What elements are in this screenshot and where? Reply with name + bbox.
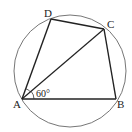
vertex-label-b: B bbox=[117, 98, 124, 110]
vertex-label-d: D bbox=[44, 7, 52, 19]
diagram-canvas: A B C D 60° bbox=[0, 0, 132, 132]
geometry-figure: A B C D 60° bbox=[0, 0, 132, 132]
angle-arc-cad bbox=[26, 89, 31, 92]
segment-bc bbox=[104, 29, 116, 99]
segment-cd bbox=[51, 19, 104, 29]
vertex-label-a: A bbox=[13, 98, 21, 110]
circumcircle bbox=[14, 15, 126, 127]
vertex-label-c: C bbox=[107, 18, 114, 30]
angle-arc-bac bbox=[31, 91, 34, 99]
angle-label: 60° bbox=[36, 88, 50, 99]
